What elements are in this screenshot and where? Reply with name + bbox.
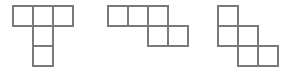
cell [128,6,148,26]
cell [218,6,238,26]
shape-3 [215,3,281,69]
cell [33,46,53,66]
cell [238,46,258,66]
cell [148,26,168,46]
cell [108,6,128,26]
cell [238,26,258,46]
shape-1 [10,3,76,69]
cell [168,26,188,46]
cell [258,46,278,66]
cell [33,26,53,46]
cell [53,6,73,26]
shape-2 [105,3,191,49]
cell [13,6,33,26]
pentomino-canvas [0,0,290,71]
cell [148,6,168,26]
cell [33,6,53,26]
cell [218,26,238,46]
